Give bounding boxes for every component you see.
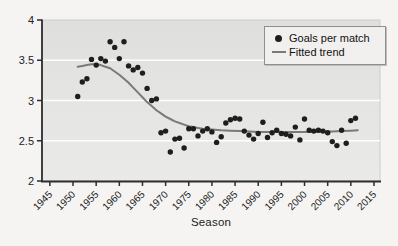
goals-per-match-chart: 22.533.541945195019551960196519701975198… (0, 0, 398, 246)
data-point (288, 133, 293, 138)
data-point (149, 98, 154, 103)
data-point (144, 86, 149, 91)
data-point (330, 139, 335, 144)
x-tick-label: 1950 (54, 188, 78, 212)
data-point (232, 116, 237, 121)
data-point (348, 118, 353, 123)
legend-label-goals: Goals per match (289, 32, 370, 44)
data-point (283, 132, 288, 137)
data-point (121, 39, 126, 44)
x-tick-label: 1990 (239, 188, 263, 212)
data-point (103, 58, 108, 63)
data-point (325, 130, 330, 135)
data-point (84, 76, 89, 81)
x-tick-label: 1985 (216, 188, 240, 212)
data-point (274, 128, 279, 133)
data-point (228, 117, 233, 122)
x-tick-label: 2000 (285, 188, 309, 212)
y-ticks: 22.533.54 (19, 14, 42, 187)
y-tick-label: 2.5 (19, 135, 34, 147)
legend: Goals per match Fitted trend (264, 26, 386, 65)
x-tick-label: 2010 (332, 188, 356, 212)
data-point (107, 39, 112, 44)
y-tick-label: 2 (28, 175, 34, 187)
data-point (293, 124, 298, 129)
x-tick-label: 1995 (262, 188, 286, 212)
y-tick-label: 3.5 (19, 54, 34, 66)
data-point (177, 136, 182, 141)
x-ticks: 1945195019551960196519701975198019851990… (31, 182, 379, 212)
data-point (339, 128, 344, 133)
data-point (94, 62, 99, 67)
data-point (219, 134, 224, 139)
data-point (353, 116, 358, 121)
data-point (246, 132, 251, 137)
y-tick-label: 3 (28, 95, 34, 107)
trend-line-icon (272, 51, 286, 53)
data-point (214, 140, 219, 145)
data-point (251, 136, 256, 141)
data-point (112, 45, 117, 50)
data-point (98, 56, 103, 61)
data-point (269, 130, 274, 135)
data-point (334, 143, 339, 148)
data-point (200, 128, 205, 133)
data-point (191, 126, 196, 131)
data-point (168, 149, 173, 154)
data-point (265, 135, 270, 140)
legend-item-goals: Goals per match (272, 31, 379, 45)
data-point (260, 120, 265, 125)
data-point (75, 94, 80, 99)
data-point (316, 128, 321, 133)
data-point (80, 79, 85, 84)
data-point (311, 128, 316, 133)
x-tick-label: 1965 (123, 188, 147, 212)
x-tick-label: 1945 (31, 188, 55, 212)
data-point (297, 137, 302, 142)
x-tick-label: 2005 (309, 188, 333, 212)
data-point (172, 136, 177, 141)
data-point (307, 128, 312, 133)
data-point (223, 120, 228, 125)
x-tick-label: 1975 (170, 188, 194, 212)
x-tick-label: 1970 (147, 188, 171, 212)
x-tick-label: 1955 (77, 188, 101, 212)
data-point (242, 128, 247, 133)
data-point (195, 133, 200, 138)
data-point (140, 70, 145, 75)
data-point (302, 116, 307, 121)
data-point (181, 145, 186, 150)
data-point (158, 130, 163, 135)
data-point (320, 128, 325, 133)
legend-item-trend: Fitted trend (272, 45, 379, 59)
data-point (163, 128, 168, 133)
data-point (205, 126, 210, 131)
data-point (209, 129, 214, 134)
y-tick-label: 4 (28, 14, 34, 26)
data-point (279, 131, 284, 136)
data-point (117, 56, 122, 61)
legend-label-trend: Fitted trend (289, 46, 345, 58)
data-point (344, 141, 349, 146)
data-point (154, 96, 159, 101)
data-point (186, 126, 191, 131)
x-tick-label: 2015 (355, 188, 379, 212)
x-axis-title: Season (42, 216, 380, 228)
x-tick-label: 1980 (193, 188, 217, 212)
data-point (126, 63, 131, 68)
data-point (237, 116, 242, 121)
data-point (131, 67, 136, 72)
data-point (135, 65, 140, 70)
goals-dot-icon (275, 35, 282, 42)
data-point (256, 131, 261, 136)
x-tick-label: 1960 (100, 188, 124, 212)
data-point (89, 57, 94, 62)
